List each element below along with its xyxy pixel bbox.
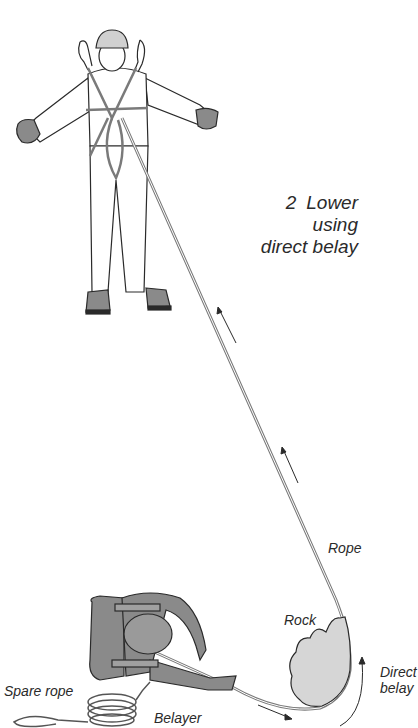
title-line-2: direct belay	[244, 236, 358, 258]
left-boot-icon	[86, 290, 110, 312]
rope-label: Rope	[328, 540, 361, 556]
spare-rope-label: Spare rope	[4, 683, 73, 699]
belayer-figure	[90, 593, 236, 690]
belayer-label: Belayer	[154, 710, 201, 726]
rock-label: Rock	[284, 612, 316, 628]
helmet-icon	[96, 30, 128, 48]
lowered-climber	[17, 30, 218, 314]
right-glove-icon	[196, 108, 218, 129]
diagram-title: 2Lower using direct belay	[244, 192, 358, 258]
illustration	[0, 0, 418, 728]
title-line-1: Lower using	[306, 192, 358, 235]
right-boot-icon	[146, 288, 170, 308]
direct-belay-label: Direct belay	[380, 664, 417, 696]
step-number: 2	[286, 192, 297, 213]
direct-belay-line-2: belay	[380, 680, 417, 696]
direct-belay-line-1: Direct	[380, 664, 417, 680]
